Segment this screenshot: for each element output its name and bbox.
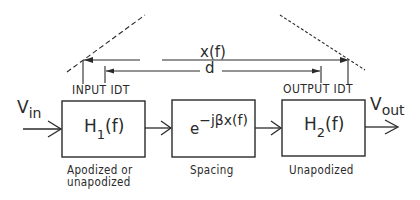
output-idt-edge-line: [280, 15, 365, 70]
input-idt-label: INPUT IDT: [72, 84, 130, 96]
input-idt-edge-line: [67, 15, 145, 72]
x-left-arrowhead: [84, 57, 93, 63]
h2-transfer-function: H2(f): [304, 116, 344, 133]
vout-label: Vout: [370, 96, 405, 113]
d-right-arrowhead: [312, 69, 320, 74]
d-left-arrowhead: [106, 69, 114, 74]
output-idt-label: OUTPUT IDT: [283, 83, 353, 95]
spacing-phase-term: e−jβx(f): [190, 121, 248, 137]
d-dimension-label: d: [205, 61, 215, 76]
vin-label: Vin: [17, 99, 41, 116]
x-dimension-label: x(f): [200, 45, 226, 60]
h1-transfer-function: H1(f): [84, 118, 124, 135]
h2-caption: Unapodized: [289, 165, 354, 177]
h1-caption-line2: unapodized: [67, 177, 131, 189]
spacing-caption: Spacing: [190, 165, 234, 177]
